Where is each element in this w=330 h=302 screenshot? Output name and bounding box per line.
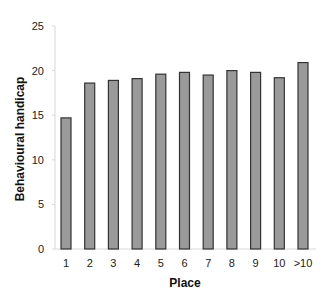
x-tick-label: 1 (63, 257, 69, 269)
y-tick-label: 5 (38, 198, 44, 210)
y-tick-label: 20 (32, 65, 44, 77)
bar-7 (203, 75, 213, 249)
x-tick-label: 9 (253, 257, 259, 269)
x-tick-label: 2 (87, 257, 93, 269)
bar-2 (85, 83, 95, 249)
bar-4 (132, 79, 142, 249)
y-tick-label: 15 (32, 109, 44, 121)
y-tick-label: 10 (32, 154, 44, 166)
x-tick-label: 3 (110, 257, 116, 269)
bar-9 (251, 72, 261, 249)
x-tick-label: 5 (158, 257, 164, 269)
bar-chart: 0510152025 12345678910>10 Behavioural ha… (0, 0, 330, 302)
x-tick-label: 8 (229, 257, 235, 269)
x-axis-title: Place (169, 276, 201, 290)
bar-3 (108, 80, 118, 249)
x-axis: 12345678910>10 (55, 249, 316, 269)
x-tick-label: 10 (273, 257, 285, 269)
bar-6 (180, 72, 190, 249)
bars (61, 63, 308, 249)
y-axis: 0510152025 (32, 20, 55, 255)
bar-10 (274, 78, 284, 249)
bar-1 (61, 118, 71, 249)
y-tick-label: 0 (38, 243, 44, 255)
bar-5 (156, 74, 166, 249)
x-tick-label: 6 (181, 257, 187, 269)
y-axis-title: Behavioural handicap (13, 77, 27, 202)
x-tick-label: 7 (205, 257, 211, 269)
x-tick-label: >10 (294, 257, 313, 269)
x-tick-label: 4 (134, 257, 140, 269)
bar-gt10 (298, 63, 308, 249)
y-tick-label: 25 (32, 20, 44, 32)
bar-8 (227, 71, 237, 249)
